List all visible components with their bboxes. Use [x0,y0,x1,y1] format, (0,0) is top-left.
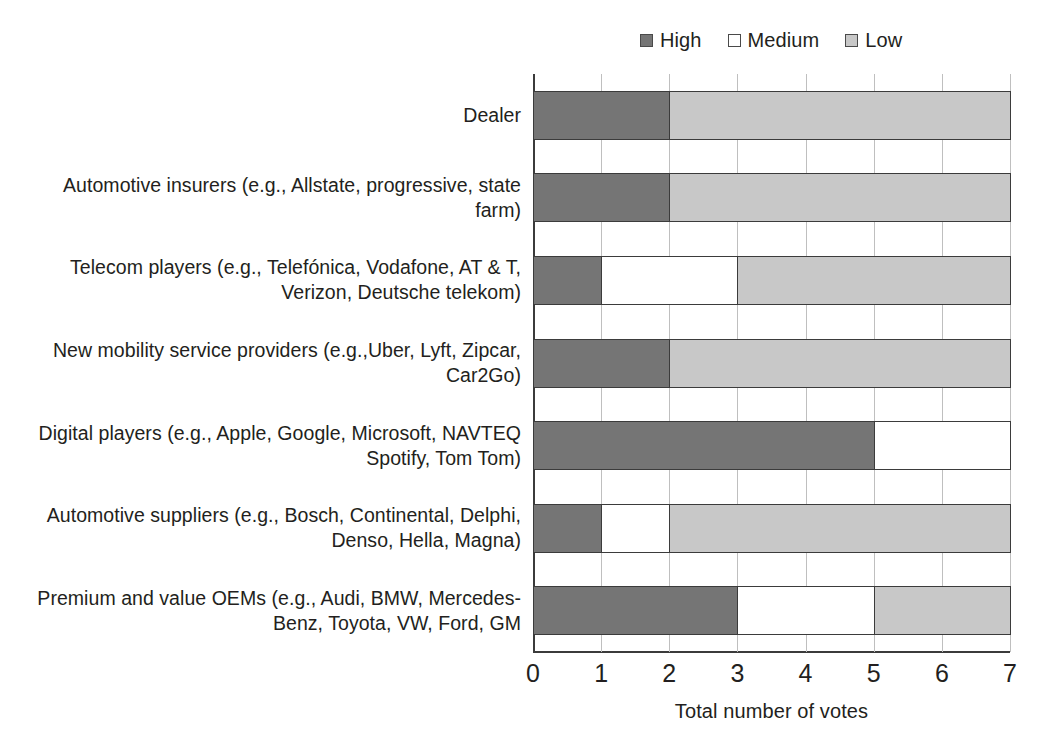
x-tick-label-3: 3 [730,658,744,688]
legend-label-high: High [660,30,702,50]
bar-row[interactable] [533,504,1011,553]
bar-row[interactable] [533,91,1011,140]
legend-item-high: High [640,30,702,50]
category-label-telecom: Telecom players (e.g., Telefónica, Vodaf… [13,255,533,305]
chart-page: High Medium Low Dealer Automotive insure… [0,0,1047,754]
x-tick-label-6: 6 [935,658,949,688]
bar-segment-high[interactable] [533,256,602,305]
bar-segment-low[interactable] [669,91,1011,140]
bar-segment-high[interactable] [533,339,670,388]
category-axis-labels: Dealer Automotive insurers (e.g., Allsta… [0,74,533,652]
bar-segment-medium[interactable] [874,421,1011,470]
chart-legend: High Medium Low [640,30,902,50]
category-label-digital-players: Digital players (e.g., Apple, Google, Mi… [13,421,533,471]
bar-segment-high[interactable] [533,91,670,140]
x-axis-tick-labels: 01234567 [533,658,1010,690]
legend-label-medium: Medium [748,30,820,50]
bar-segment-low[interactable] [669,504,1011,553]
bar-segment-low[interactable] [737,256,1011,305]
x-tick-label-5: 5 [867,658,881,688]
legend-swatch-medium-icon [728,34,741,47]
category-label-oems: Premium and value OEMs (e.g., Audi, BMW,… [13,586,533,636]
bar-row[interactable] [533,421,1011,470]
bar-row[interactable] [533,173,1011,222]
legend-item-medium: Medium [728,30,820,50]
bar-row[interactable] [533,586,1011,635]
bar-row[interactable] [533,256,1011,305]
bar-segment-medium[interactable] [601,504,670,553]
category-label-insurers: Automotive insurers (e.g., Allstate, pro… [13,173,533,223]
bar-segment-medium[interactable] [601,256,738,305]
bar-segment-low[interactable] [669,339,1011,388]
x-tick-label-4: 4 [799,658,813,688]
bar-segment-low[interactable] [669,173,1011,222]
x-tick-label-7: 7 [1003,658,1017,688]
legend-label-low: Low [865,30,902,50]
legend-swatch-high-icon [640,34,653,47]
x-tick-label-0: 0 [526,658,540,688]
bar-segment-medium[interactable] [737,586,874,635]
legend-swatch-low-icon [845,34,858,47]
x-tick-label-2: 2 [662,658,676,688]
category-label-dealer: Dealer [13,103,533,128]
x-axis-title: Total number of votes [533,700,1010,723]
bar-segment-low[interactable] [874,586,1011,635]
bar-segment-high[interactable] [533,421,875,470]
bar-segment-high[interactable] [533,586,738,635]
x-tick-label-1: 1 [594,658,608,688]
legend-item-low: Low [845,30,902,50]
category-label-suppliers: Automotive suppliers (e.g., Bosch, Conti… [13,503,533,553]
bar-row[interactable] [533,339,1011,388]
category-label-new-mobility: New mobility service providers (e.g.,Ube… [13,338,533,388]
bar-segment-high[interactable] [533,173,670,222]
plot-area [533,74,1010,652]
x-axis-line [533,651,1010,653]
bar-segment-high[interactable] [533,504,602,553]
